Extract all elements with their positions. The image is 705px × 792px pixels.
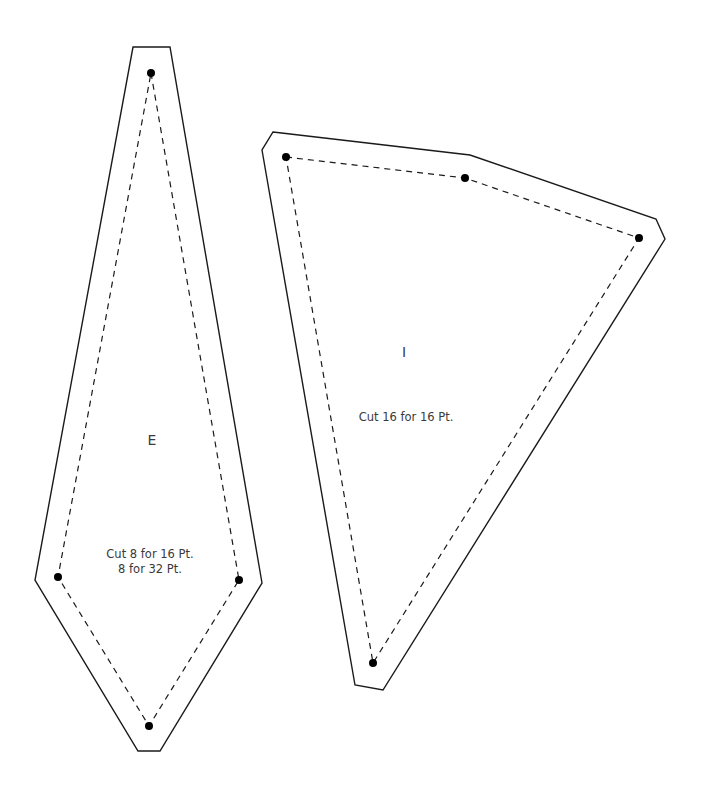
- pattern-sheet: E Cut 8 for 16 Pt. 8 for 32 Pt. I Cut 16…: [0, 0, 705, 792]
- piece-i-cut-note: Cut 16 for 16 Pt.: [350, 410, 462, 425]
- piece-e-letter: E: [140, 432, 164, 448]
- piece-e-seam-dot-right: [235, 576, 243, 584]
- piece-i-seam-line: [286, 157, 639, 663]
- piece-e-seam-dot-bottom: [145, 722, 153, 730]
- pattern-piece-i: [262, 132, 665, 690]
- piece-e-cut-note-line1: Cut 8 for 16 Pt.: [90, 547, 210, 562]
- piece-i-seam-dot-top-middle: [461, 174, 469, 182]
- piece-i-seam-dot-bottom: [369, 659, 377, 667]
- piece-i-cut-line: [262, 132, 665, 690]
- pattern-drawing: [0, 0, 705, 792]
- piece-e-seam-line: [58, 73, 239, 726]
- piece-e-cut-line: [35, 47, 262, 751]
- piece-e-cut-note-line2: 8 for 32 Pt.: [90, 562, 210, 577]
- piece-e-seam-dot-left: [54, 573, 62, 581]
- piece-e-seam-dot-top: [147, 69, 155, 77]
- piece-i-seam-dot-top-left: [282, 153, 290, 161]
- pattern-piece-e: [35, 47, 262, 751]
- piece-i-seam-dot-right: [635, 234, 643, 242]
- piece-i-letter: I: [392, 344, 416, 360]
